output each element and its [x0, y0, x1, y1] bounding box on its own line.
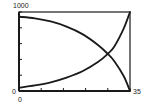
- x-axis-max-label: 35: [133, 88, 141, 95]
- y-axis-min-label: 0: [12, 88, 16, 95]
- series-line-decreasing: [19, 17, 130, 91]
- plot-frame: [19, 12, 130, 91]
- series-line-increasing: [19, 12, 130, 88]
- plot-area: [0, 0, 144, 106]
- chart: 1000 0 0 35: [0, 0, 144, 106]
- y-axis-max-label: 1000: [13, 2, 29, 9]
- x-axis-min-label: 0: [18, 96, 22, 103]
